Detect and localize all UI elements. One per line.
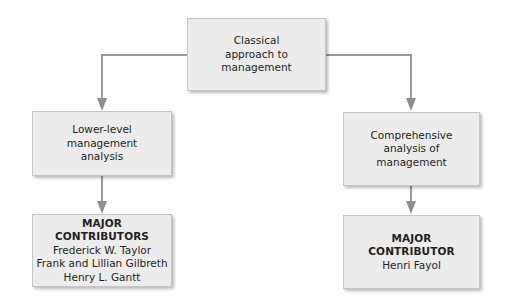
node-text-line: Comprehensive bbox=[370, 129, 452, 143]
node-text-line: management bbox=[67, 137, 137, 151]
node-major-contributors: MAJOR CONTRIBUTORS Frederick W. Taylor F… bbox=[32, 214, 172, 287]
connector-segment bbox=[101, 54, 103, 100]
node-text-line: analysis of bbox=[384, 142, 440, 156]
connector-segment bbox=[101, 176, 103, 204]
arrow-down-icon bbox=[406, 98, 416, 111]
contributor-name: Frank and Lillian Gilbreth bbox=[36, 257, 167, 271]
node-text-line: Lower-level bbox=[72, 123, 132, 137]
connector-segment bbox=[326, 54, 411, 56]
node-text-line: approach to bbox=[225, 48, 288, 62]
node-lower-level-analysis: Lower-level management analysis bbox=[32, 111, 172, 176]
node-comprehensive-analysis: Comprehensive analysis of management bbox=[343, 112, 480, 186]
node-text-line: management bbox=[376, 156, 446, 170]
node-text-line: analysis bbox=[81, 150, 124, 164]
arrow-down-icon bbox=[97, 98, 107, 111]
connector-segment bbox=[101, 54, 188, 56]
connector-segment bbox=[410, 54, 412, 100]
contributor-heading: MAJOR bbox=[392, 232, 432, 246]
contributors-heading: MAJOR bbox=[82, 217, 122, 231]
arrow-down-icon bbox=[406, 201, 416, 214]
contributor-name: Henri Fayol bbox=[382, 259, 441, 273]
contributors-heading: CONTRIBUTORS bbox=[55, 230, 149, 244]
contributor-name: Frederick W. Taylor bbox=[53, 244, 151, 258]
contributor-name: Henry L. Gantt bbox=[64, 271, 141, 285]
node-classical-approach: Classical approach to management bbox=[187, 18, 326, 91]
node-text-line: management bbox=[221, 61, 291, 75]
arrow-down-icon bbox=[97, 201, 107, 214]
node-major-contributor: MAJOR CONTRIBUTOR Henri Fayol bbox=[343, 215, 480, 289]
node-text-line: Classical bbox=[234, 34, 280, 48]
contributor-heading: CONTRIBUTOR bbox=[368, 245, 454, 259]
